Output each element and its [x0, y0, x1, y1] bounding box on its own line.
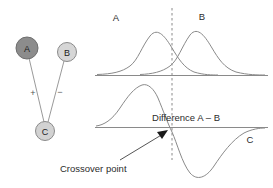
curve-c-label: C	[247, 134, 254, 145]
chart-activations: A B	[95, 11, 268, 76]
crossover-point-figure: A B C + − A B	[0, 0, 273, 188]
curve-a-label: A	[113, 12, 120, 23]
crossover-point-label: Crossover point	[60, 163, 127, 174]
edge-sign-positive: +	[30, 88, 35, 98]
crossover-annotation: Crossover point	[60, 130, 168, 174]
figure-canvas: A B C + − A B	[0, 0, 273, 188]
crossover-arrow-shaft	[120, 134, 163, 160]
edge-sign-negative: −	[57, 87, 62, 97]
node-b-label: B	[64, 48, 70, 58]
crossover-arrow-head	[157, 130, 168, 139]
node-c-label: C	[42, 127, 49, 137]
difference-label: Difference A – B	[152, 112, 220, 123]
network-diagram: A B C + −	[16, 37, 77, 141]
curve-b	[140, 31, 265, 75]
curve-a	[97, 32, 218, 75]
node-a-label: A	[24, 44, 30, 54]
curve-b-label: B	[199, 11, 205, 22]
